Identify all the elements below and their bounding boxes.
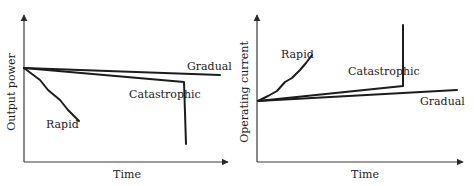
right-panel: Rapid Catastrophic Gradual Time Operatin… [238,15,465,181]
label-rapid: Rapid [46,118,79,131]
left-panel: Gradual Catastrophic Rapid Time Output p… [5,15,232,181]
x-axis-label: Time [351,168,379,181]
y-axis-label: Output power [5,53,18,131]
curve-catastrophic [258,25,403,101]
label-rapid: Rapid [281,48,314,61]
label-gradual: Gradual [187,60,232,73]
x-axis-label: Time [113,168,141,181]
curve-rapid [258,55,312,101]
figure: Gradual Catastrophic Rapid Time Output p… [0,0,474,186]
curve-catastrophic [24,68,186,144]
curve-rapid [24,68,79,121]
y-axis-label: Operating current [238,41,251,143]
label-catastrophic: Catastrophic [129,88,201,101]
label-catastrophic: Catastrophic [348,65,420,78]
label-gradual: Gradual [420,95,465,108]
